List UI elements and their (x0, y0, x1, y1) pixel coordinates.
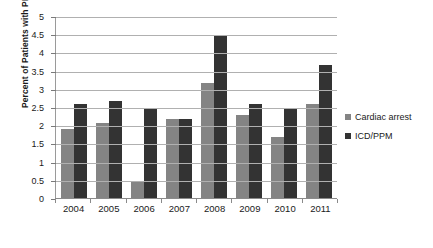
x-axis-tick-label: 2008 (197, 203, 232, 214)
grid-line (55, 163, 337, 164)
x-axis-tick-label: 2011 (303, 203, 338, 214)
x-axis-tick-label: 2005 (91, 203, 126, 214)
legend-swatch-icon (345, 133, 351, 139)
legend-swatch-icon (345, 114, 351, 120)
y-axis-tick-mark (51, 181, 56, 182)
legend-item: Cardiac arrest (345, 112, 412, 122)
plot-area (55, 17, 337, 199)
chart-container: Percent of Patients with PPCM 00.511.522… (0, 0, 433, 248)
grid-line (55, 53, 337, 54)
bar (74, 104, 87, 198)
bar (284, 108, 297, 198)
y-axis-tick-label: 3 (0, 85, 44, 95)
y-axis-tick-label: 0 (0, 194, 44, 204)
y-axis-tick-mark (51, 35, 56, 36)
y-axis-tick-label: 3.5 (0, 67, 44, 77)
bar (179, 119, 192, 198)
bar (96, 123, 109, 198)
y-axis-tick-mark (51, 53, 56, 54)
y-axis-tick-label: 0.5 (0, 176, 44, 186)
y-axis-tick-mark (51, 72, 56, 73)
bar (271, 137, 284, 198)
x-axis-tick-label: 2004 (56, 203, 91, 214)
y-axis-tick-mark (51, 17, 56, 18)
x-axis-tick-label: 2010 (268, 203, 303, 214)
legend: Cardiac arrestICD/PPM (345, 112, 412, 141)
y-axis-tick-mark (51, 163, 56, 164)
y-axis-tick-label: 4.5 (0, 30, 44, 40)
legend-item: ICD/PPM (345, 131, 412, 141)
grid-line (55, 108, 337, 109)
y-axis-tick-mark (51, 144, 56, 145)
y-axis-tick-label: 2 (0, 121, 44, 131)
y-axis-tick-label: 2.5 (0, 103, 44, 113)
bar (319, 65, 332, 198)
grid-line (55, 17, 337, 18)
y-axis-tick-label: 4 (0, 48, 44, 58)
grid-line (55, 144, 337, 145)
legend-label: Cardiac arrest (355, 112, 412, 122)
legend-label: ICD/PPM (355, 131, 393, 141)
y-axis-tick-mark (51, 108, 56, 109)
bar (236, 115, 249, 198)
grid-line (55, 72, 337, 73)
x-axis-tick-label: 2009 (232, 203, 267, 214)
x-axis-tick-label: 2006 (127, 203, 162, 214)
grid-line (55, 126, 337, 127)
grid-line (55, 181, 337, 182)
x-axis-tick-labels: 20042005200620072008200920102011 (56, 203, 338, 214)
bar (109, 101, 122, 198)
bar (131, 181, 144, 198)
x-axis-tick-label: 2007 (162, 203, 197, 214)
bar (249, 104, 262, 198)
bar (214, 36, 227, 198)
bar (144, 108, 157, 198)
y-axis-tick-label: 5 (0, 12, 44, 22)
grid-line (55, 35, 337, 36)
bar (166, 119, 179, 198)
bar (61, 129, 74, 198)
bar (306, 104, 319, 198)
grid-line (55, 90, 337, 91)
y-axis-tick-mark (51, 90, 56, 91)
y-axis-tick-label: 1.5 (0, 139, 44, 149)
y-axis-tick-mark (51, 126, 56, 127)
y-axis-tick-label: 1 (0, 158, 44, 168)
